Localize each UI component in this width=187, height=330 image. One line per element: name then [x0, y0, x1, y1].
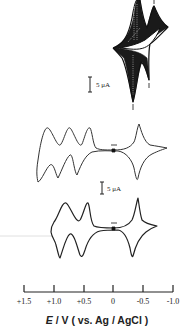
scale-bar-top-label: 5 μA: [96, 81, 110, 89]
tick-label: -1.0: [167, 297, 180, 306]
x-axis-title-unit: / V ( vs. Ag / AgCl ): [53, 314, 148, 326]
top-cv-dense-region: [113, 0, 168, 102]
top-cv-panel: [113, 0, 168, 110]
tick-label: 0: [111, 297, 115, 306]
bottom-cv-trace: [51, 198, 157, 258]
tick-label: +0.5: [77, 297, 92, 306]
x-axis-title: E / V ( vs. Ag / AgCl ): [46, 314, 149, 326]
tick-label: +1.0: [47, 297, 62, 306]
x-axis-tick-labels: +1.5 +1.0 +0.5 0 -0.5 -1.0: [17, 297, 180, 306]
scale-bar-middle-label: 5 μA: [107, 185, 121, 193]
cyclic-voltammogram-figure: 5 μA 5 μA +1.5 +1.0 +0.5: [0, 0, 187, 330]
scale-bar-middle: [100, 182, 104, 194]
middle-cv-trace: [37, 124, 167, 182]
tick-label: -0.5: [137, 297, 150, 306]
scale-bar-top: [88, 77, 92, 92]
x-axis: [24, 285, 173, 292]
bottom-cv-panel: [51, 198, 157, 258]
middle-cv-panel: [37, 124, 167, 182]
tick-label: +1.5: [17, 297, 32, 306]
bottom-cv-start-arrow: [111, 223, 117, 230]
